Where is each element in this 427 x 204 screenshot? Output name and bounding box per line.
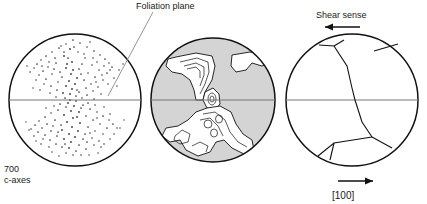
skeleton-central-girdle (319, 45, 372, 137)
foliation-plane-label: Foliation plane (136, 1, 195, 12)
skeleton-branch-top (334, 40, 344, 46)
figure-canvas (0, 0, 427, 204)
skeleton-branch-lower-right (372, 137, 392, 148)
skeleton-branch-lower-left (318, 137, 372, 156)
c-axes-count-label: 700 (4, 164, 19, 175)
crystal-direction-label: [100] (332, 190, 354, 201)
c-axes-type-label: c-axes (4, 175, 31, 186)
foliation-leader-line (108, 12, 153, 96)
panel-scatter (9, 34, 141, 166)
shear-arrow-top (325, 24, 360, 31)
shear-arrow-bottom (338, 178, 373, 185)
panel-contour (151, 38, 275, 162)
stereonet-figure: Foliation plane Shear sense 700 c-axes [… (0, 0, 427, 204)
scatter-points (25, 39, 124, 157)
shear-sense-label: Shear sense (316, 10, 367, 21)
panel-skeleton (286, 34, 418, 166)
